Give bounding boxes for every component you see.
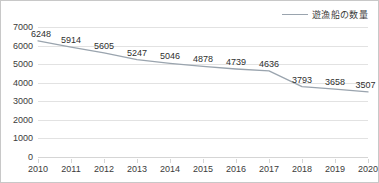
x-axis-tick <box>137 159 138 163</box>
line-marker-icon <box>282 14 308 15</box>
y-axis-tick-label: 3000 <box>1 96 33 106</box>
data-point-label: 5605 <box>94 41 114 51</box>
y-axis-tick-label: 0 <box>1 152 33 162</box>
series-line-group <box>38 27 368 157</box>
x-axis-tick <box>302 159 303 163</box>
x-axis-tick <box>236 159 237 163</box>
data-point-label: 5914 <box>61 35 81 45</box>
y-axis-tick-label: 1000 <box>1 133 33 143</box>
data-point-label: 4636 <box>259 59 279 69</box>
x-axis-tick <box>104 159 105 163</box>
x-axis-tick-label: 2017 <box>259 164 279 174</box>
x-axis-tick <box>368 159 369 163</box>
x-axis-tick-label: 2012 <box>94 164 114 174</box>
data-point-label: 3793 <box>292 75 312 85</box>
x-axis-tick <box>71 159 72 163</box>
y-axis-tick-label: 6000 <box>1 41 33 51</box>
plot-area: 6248591456055247504648784739463637933658… <box>38 27 368 157</box>
data-point-label: 3658 <box>325 77 345 87</box>
data-point-label: 5247 <box>127 48 147 58</box>
x-axis-tick-label: 2014 <box>160 164 180 174</box>
x-axis-tick <box>335 159 336 163</box>
legend-label: 遊漁船の数量 <box>312 8 368 21</box>
x-axis-tick-label: 2016 <box>226 164 246 174</box>
data-point-label: 4739 <box>226 57 246 67</box>
x-axis-tick <box>38 159 39 163</box>
x-axis-labels: 2010201120122013201420152016201720182019… <box>38 159 368 173</box>
chart-legend: 遊漁船の数量 <box>282 7 368 21</box>
x-axis-tick <box>170 159 171 163</box>
data-point-label: 4878 <box>193 54 213 64</box>
x-axis-tick-label: 2011 <box>61 164 80 174</box>
x-axis-tick-label: 2018 <box>292 164 312 174</box>
x-axis-tick-label: 2010 <box>28 164 48 174</box>
line-chart: 遊漁船の数量 01000200030004000500060007000 624… <box>0 0 379 183</box>
y-axis-tick-label: 5000 <box>1 59 33 69</box>
x-axis-tick-label: 2013 <box>127 164 147 174</box>
x-axis-tick <box>269 159 270 163</box>
y-axis-tick-label: 4000 <box>1 78 33 88</box>
series-line-fishing-boats <box>38 41 368 92</box>
x-axis-tick-label: 2019 <box>325 164 345 174</box>
x-axis-tick <box>203 159 204 163</box>
x-axis-tick-label: 2020 <box>358 164 378 174</box>
data-point-label: 6248 <box>31 29 51 39</box>
data-point-label: 3507 <box>356 80 376 90</box>
y-axis-tick-label: 7000 <box>1 22 33 32</box>
x-axis-tick-label: 2015 <box>193 164 213 174</box>
data-point-label: 5046 <box>160 51 180 61</box>
y-axis-tick-label: 2000 <box>1 115 33 125</box>
gridline <box>38 157 368 158</box>
